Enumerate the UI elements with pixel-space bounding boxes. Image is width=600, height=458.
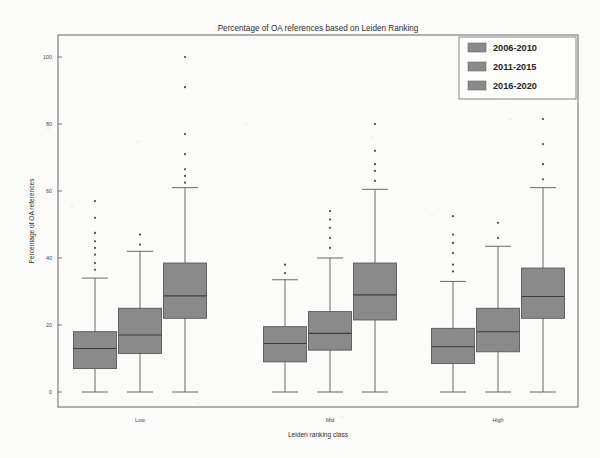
y-tick-label: 80 <box>46 121 52 127</box>
box-plot-box <box>432 215 475 392</box>
y-axis-ticks: 020406080100 <box>43 54 62 395</box>
box-plot-box <box>164 56 207 392</box>
box-plot-box <box>119 233 162 392</box>
x-tick-label: High <box>492 417 503 423</box>
box-plot-box <box>354 123 397 392</box>
box-plot-box <box>522 118 565 392</box>
boxplot-figure: Percentage of OA references based on Lei… <box>0 0 600 458</box>
box-plot-box <box>477 222 520 392</box>
y-tick-label: 20 <box>46 322 52 328</box>
box-plot-box <box>74 200 117 392</box>
y-tick-label: 60 <box>46 188 52 194</box>
x-axis-ticks: LowMidHigh <box>135 417 503 423</box>
box-plot-series-layer <box>74 56 565 392</box>
box-plot-box <box>309 210 352 392</box>
x-tick-label: Low <box>135 417 145 423</box>
y-tick-label: 40 <box>46 255 52 261</box>
y-tick-label: 0 <box>49 389 52 395</box>
chart-title: Percentage of OA references based on Lei… <box>218 24 419 33</box>
legend-label: 2016-2020 <box>493 81 537 91</box>
legend-label: 2006-2010 <box>493 43 537 53</box>
legend-label: 2011-2015 <box>493 62 536 72</box>
legend-swatch <box>468 43 486 52</box>
x-tick-label: Mid <box>326 417 335 423</box>
x-axis-label: Leiden ranking class <box>288 431 349 439</box>
legend-swatch <box>468 81 486 90</box>
chart-legend: 2006-20102011-20152016-2020 <box>459 37 576 99</box>
y-axis-label: Percentage of OA references <box>28 178 36 264</box>
y-tick-label: 100 <box>43 54 52 60</box>
legend-swatch <box>468 62 486 71</box>
box-plot-box <box>264 264 307 392</box>
